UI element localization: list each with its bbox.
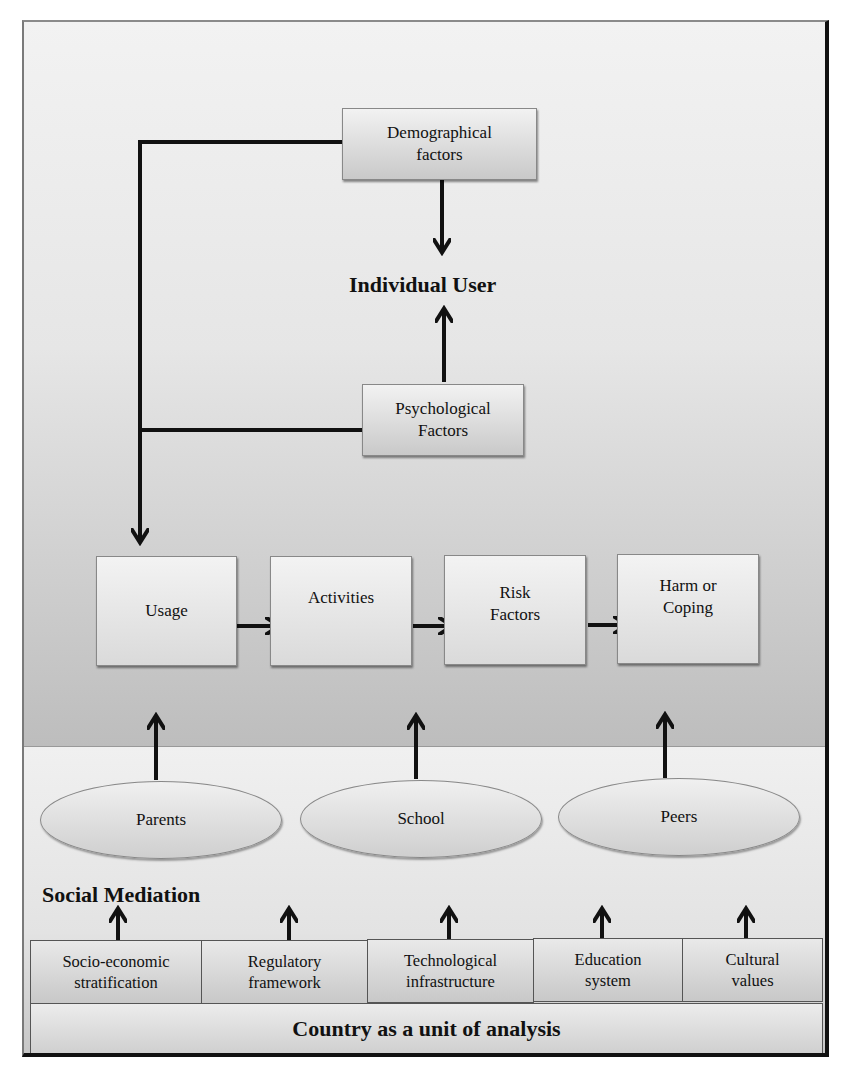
school-ellipse: School [300,780,542,858]
box-label-line: factors [387,144,492,166]
diagram-frame: Demographical factors Individual User Ps… [22,20,829,1057]
cell-label-line: Socio-economic [62,951,169,972]
box-label-line: Risk [490,582,540,604]
ellipse-label: Peers [661,807,698,827]
risk-factors-box: Risk Factors [444,555,586,665]
country-label: Country as a unit of analysis [292,1016,560,1042]
cultural-values-cell: Cultural values [682,938,823,1002]
box-label-line: Activities [308,587,374,609]
demographical-factors-box: Demographical factors [342,108,537,180]
psychological-factors-box: Psychological Factors [362,384,524,456]
cell-label-line: stratification [62,972,169,993]
box-label-line: Factors [395,420,490,442]
usage-box: Usage [96,556,237,666]
social-mediation-title: Social Mediation [42,882,200,908]
activities-box: Activities [270,556,412,666]
country-unit-of-analysis-bar: Country as a unit of analysis [30,1003,823,1055]
cell-label-line: Regulatory [248,951,321,972]
box-label-line: Harm or [659,575,716,597]
cell-label-line: Technological [404,950,497,971]
education-system-cell: Education system [533,938,683,1002]
harm-or-coping-box: Harm or Coping [617,554,759,664]
peers-ellipse: Peers [558,778,800,856]
box-label-line: Psychological [395,398,490,420]
individual-user-title: Individual User [349,272,496,298]
cell-label-line: Cultural [725,949,779,970]
socio-economic-stratification-cell: Socio-economic stratification [30,940,202,1004]
ellipse-label: School [397,809,444,829]
cell-label-line: infrastructure [404,971,497,992]
regulatory-framework-cell: Regulatory framework [201,940,368,1004]
parents-ellipse: Parents [40,781,282,859]
box-label-line: Coping [659,597,716,619]
box-label-line: Demographical [387,122,492,144]
box-label-line: Factors [490,604,540,626]
technological-infrastructure-cell: Technological infrastructure [367,939,534,1003]
cell-label-line: framework [248,972,321,993]
cell-label-line: Education [575,949,642,970]
ellipse-label: Parents [136,810,186,830]
box-label-line: Usage [145,600,187,622]
cell-label-line: values [725,970,779,991]
cell-label-line: system [575,970,642,991]
